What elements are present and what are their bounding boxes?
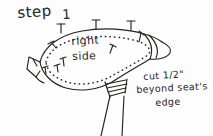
post-clamp-coil-1: [106, 80, 126, 84]
post-clamp-coil-2: [107, 84, 127, 88]
t-pin-inner-3: [110, 44, 116, 53]
seat-post-left: [101, 96, 110, 136]
t-pin-top-2: [92, 20, 100, 29]
step-number: 1: [62, 8, 71, 22]
t-pin-inner-6: [54, 64, 60, 72]
post-clamp-coil-4: [110, 92, 125, 96]
cut-annotation-line3: edge: [155, 97, 181, 108]
seat-post-right: [122, 96, 124, 136]
post-clamp-edge-right: [125, 79, 127, 93]
seat-outline-bottom: [40, 59, 150, 90]
rear-tab-lower: [36, 77, 44, 83]
seat-nose-fold-1: [144, 34, 152, 59]
t-pin-top-1: [57, 24, 65, 33]
post-clamp-coil-3: [108, 88, 126, 92]
step-label: step: [17, 4, 52, 22]
t-pin-inner-2: [60, 57, 66, 66]
seat-nose: [150, 42, 171, 59]
t-pin-top-3: [127, 21, 135, 30]
sketch-canvas: step 1 right side cut 1/2" beyond seat's…: [0, 0, 213, 136]
right-side-label-line2: side: [72, 50, 97, 62]
right-side-label-line1: right: [71, 35, 99, 48]
